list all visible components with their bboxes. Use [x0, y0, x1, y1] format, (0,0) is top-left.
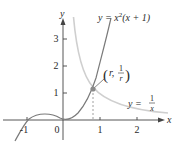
- y-tick-label: 2: [54, 60, 59, 71]
- x-axis-arrow-icon: [158, 118, 165, 123]
- svg-text:1: 1: [119, 64, 123, 73]
- x-axis-label: x: [166, 114, 172, 125]
- svg-text:(: (: [103, 67, 108, 84]
- svg-text:x: x: [149, 104, 154, 113]
- x-tick-label: -1: [20, 124, 28, 135]
- y-tick-label: 1: [54, 87, 59, 98]
- svg-text:r,: r,: [109, 67, 114, 78]
- x-tick-label: 0: [55, 124, 60, 135]
- intersection-label: ( r, 1 r ): [103, 64, 130, 84]
- graph: -1 0 1 2 1 2 3 x y y = x2(x + 1) ( r, 1 …: [0, 0, 175, 144]
- cubic-label: y = x2(x + 1): [97, 11, 151, 24]
- x-tick-label: 1: [98, 124, 103, 135]
- svg-text:y =: y =: [127, 98, 144, 109]
- y-tick-label: 3: [54, 33, 59, 44]
- svg-text:r: r: [119, 74, 123, 83]
- svg-text:1: 1: [150, 94, 154, 103]
- intersection-point: [90, 86, 95, 91]
- y-axis-arrow-icon: [61, 18, 66, 25]
- svg-text:): ): [125, 67, 130, 84]
- x-tick-label: 2: [135, 124, 140, 135]
- y-axis-label: y: [59, 8, 65, 19]
